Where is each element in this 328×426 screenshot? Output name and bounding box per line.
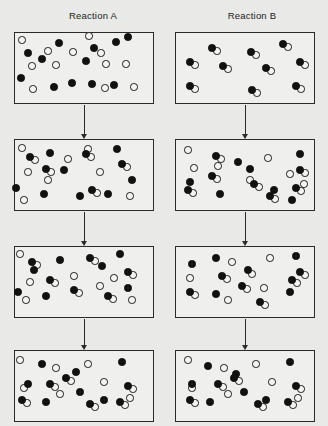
white-atom <box>26 278 34 286</box>
molecule-black-half <box>186 82 194 90</box>
white-atom <box>268 378 276 386</box>
molecule-black-half <box>256 298 264 306</box>
white-atom <box>56 390 64 398</box>
molecule-black-half <box>266 192 274 200</box>
white-atom <box>18 36 26 44</box>
molecule-black-half <box>247 48 255 56</box>
white-atom <box>228 258 236 266</box>
molecule-black-half <box>116 398 124 406</box>
black-atom <box>40 190 48 198</box>
black-atom <box>113 145 121 153</box>
white-atom <box>101 84 109 92</box>
black-atom <box>286 358 294 366</box>
black-atom <box>188 380 196 388</box>
black-atom <box>60 166 68 174</box>
black-atom <box>286 288 294 296</box>
white-atom <box>85 32 93 40</box>
white-atom <box>16 250 24 258</box>
black-atom <box>206 398 214 406</box>
molecule-black-half <box>124 382 132 390</box>
black-atom <box>116 250 124 258</box>
column-title-a: Reaction A <box>53 10 133 21</box>
black-atom <box>88 80 96 88</box>
molecule-black-half <box>184 186 192 194</box>
black-atom <box>292 252 300 260</box>
white-atom <box>286 170 294 178</box>
molecule-black-half <box>288 276 296 284</box>
white-atom <box>264 154 272 162</box>
molecule-black-half <box>124 268 132 276</box>
white-atom <box>128 296 136 304</box>
white-atom <box>24 168 32 176</box>
black-atom <box>46 149 54 157</box>
molecule-black-half <box>296 166 304 174</box>
black-atom <box>234 158 242 166</box>
white-atom <box>96 168 104 176</box>
white-atom <box>224 296 232 304</box>
white-atom <box>220 364 228 372</box>
white-atom <box>224 390 232 398</box>
molecule-black-half <box>296 268 304 276</box>
molecule-black-half <box>284 398 292 406</box>
molecule-black-half <box>88 186 96 194</box>
black-atom <box>14 288 22 296</box>
molecule-black-half <box>262 64 270 72</box>
white-atom <box>190 164 198 172</box>
molecule-black-half <box>292 382 300 390</box>
black-atom <box>246 165 254 173</box>
black-atom <box>98 262 106 270</box>
white-atom <box>102 60 110 68</box>
black-atom <box>17 74 25 82</box>
white-atom <box>84 360 92 368</box>
flow-arrow <box>245 212 246 245</box>
molecule-black-half <box>250 180 258 188</box>
white-atom <box>16 356 24 364</box>
molecule-black-half <box>42 165 50 173</box>
white-atom <box>44 47 52 55</box>
white-atom <box>97 49 105 57</box>
black-atom <box>90 44 98 52</box>
white-atom <box>22 296 30 304</box>
flow-arrow <box>245 105 246 138</box>
black-atom <box>112 38 120 46</box>
white-atom <box>28 62 36 70</box>
white-atom <box>184 146 192 154</box>
white-atom <box>260 284 268 292</box>
flow-arrow <box>84 105 85 138</box>
black-atom <box>204 362 212 370</box>
molecule-black-half <box>248 86 256 94</box>
molecule-black-half <box>62 374 70 382</box>
molecule-black-half <box>46 380 54 388</box>
molecule-black-half <box>292 184 300 192</box>
black-atom <box>128 176 136 184</box>
white-atom <box>69 48 77 56</box>
molecule-black-half <box>118 160 126 168</box>
molecule-black-half <box>214 380 222 388</box>
molecule-black-half <box>18 396 26 404</box>
flow-arrow <box>245 319 246 349</box>
black-atom <box>24 49 32 57</box>
white-atom <box>96 282 104 290</box>
white-atom <box>18 144 26 152</box>
molecule-black-half <box>28 258 36 266</box>
molecule-black-half <box>186 58 194 66</box>
white-atom <box>100 378 108 386</box>
black-atom <box>212 254 220 262</box>
white-atom <box>214 162 222 170</box>
molecule-black-half <box>230 374 238 382</box>
black-atom <box>68 79 76 87</box>
molecule-black-half <box>218 272 226 280</box>
flow-arrow <box>84 212 85 245</box>
molecule-black-half <box>254 400 262 408</box>
black-atom <box>12 184 20 192</box>
molecule-black-half <box>186 288 194 296</box>
black-atom <box>76 388 84 396</box>
black-atom <box>55 39 63 47</box>
black-atom <box>244 266 252 274</box>
black-atom <box>186 178 194 186</box>
molecule-black-half <box>238 282 246 290</box>
black-atom <box>240 388 248 396</box>
black-atom <box>188 260 196 268</box>
black-atom <box>50 83 58 91</box>
white-atom <box>122 60 130 68</box>
